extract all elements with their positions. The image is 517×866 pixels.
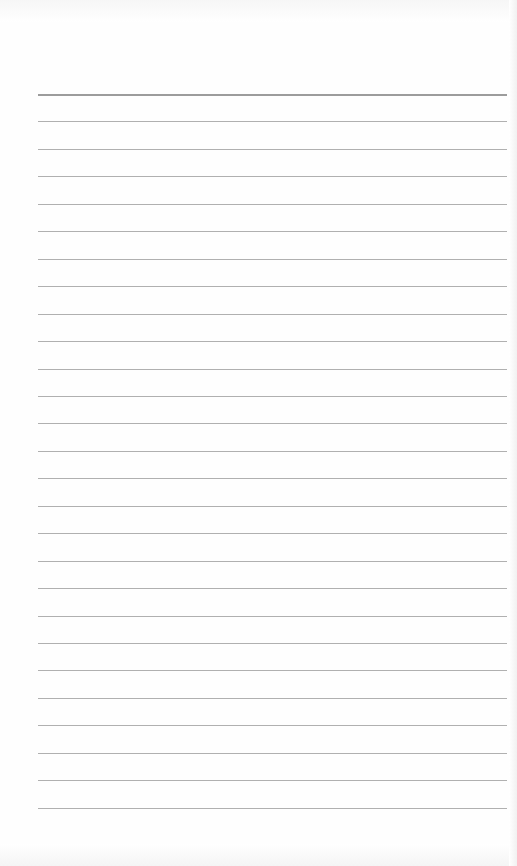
rule-line [38, 341, 507, 342]
rule-line [38, 753, 507, 754]
top-edge-bleed [0, 0, 517, 22]
rule-line [38, 121, 507, 122]
rule-line [38, 204, 507, 205]
right-edge-shadow [509, 0, 517, 866]
header-rule-line [38, 94, 507, 96]
rule-line [38, 369, 507, 370]
rule-line [38, 808, 507, 809]
lined-paper-sheet [0, 0, 517, 866]
rule-line [38, 643, 507, 644]
rule-line [38, 506, 507, 507]
rule-line [38, 725, 507, 726]
rule-line [38, 533, 507, 534]
rule-line [38, 286, 507, 287]
bottom-edge-bleed [0, 844, 517, 866]
rule-line [38, 451, 507, 452]
rule-line [38, 588, 507, 589]
rule-line [38, 670, 507, 671]
rule-line [38, 423, 507, 424]
rule-line [38, 698, 507, 699]
rule-line [38, 314, 507, 315]
rule-line [38, 149, 507, 150]
rule-line [38, 478, 507, 479]
rule-line [38, 780, 507, 781]
rule-line [38, 616, 507, 617]
rule-line [38, 176, 507, 177]
rule-line [38, 259, 507, 260]
rule-line [38, 231, 507, 232]
rule-line [38, 561, 507, 562]
rule-line [38, 396, 507, 397]
